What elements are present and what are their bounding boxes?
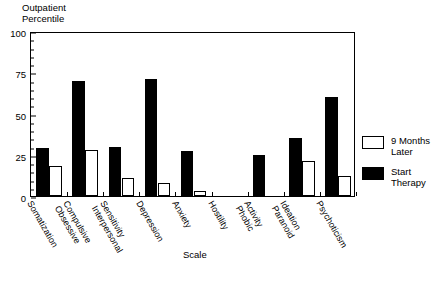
y-axis-minor-tick [31,132,34,133]
legend-swatch-9-months-later [362,136,384,149]
legend-label: 9 Months Later [391,135,430,157]
y-axis-minor-tick [31,57,34,58]
y-axis-tick-label: 0 [21,193,26,204]
y-axis-minor-tick [31,90,34,91]
x-axis-category-label: IdeationParanoid [270,199,305,240]
bar-start-therapy [145,79,158,196]
x-axis-tick [139,192,140,196]
y-axis-minor-tick [31,189,34,190]
y-axis-title: Outpatient Percentile [22,2,66,24]
category-label-line1: Anxiety [170,199,193,230]
y-axis-minor-tick [31,41,34,42]
bar-chart: Outpatient Percentile 0255075100 Scale 9… [0,0,437,281]
plot-area: 0255075100 [30,32,355,197]
bar-9-months-later [122,178,135,196]
legend-label-line1: 9 Months [391,135,430,146]
y-axis-minor-tick [31,66,34,67]
y-axis-title-line1: Outpatient [22,2,66,13]
x-axis-title: Scale [183,249,207,260]
legend-label: Start Therapy [391,166,426,188]
y-axis-minor-tick [31,82,34,83]
x-axis-category-label: Depression [134,199,165,243]
y-axis-minor-tick [31,148,34,149]
legend-item: Start Therapy [362,166,430,188]
bar-start-therapy [181,151,194,196]
x-axis-tick [320,192,321,196]
y-axis-tick-label: 50 [15,110,26,121]
y-axis-minor-tick [31,123,34,124]
bar-start-therapy [325,97,338,196]
y-axis-tick [31,115,36,116]
legend-label-line2: Therapy [391,177,426,188]
x-axis-category-label: SensitivityInterpersonal [89,199,133,255]
bar-start-therapy [253,155,266,196]
bar-9-months-later [194,191,207,196]
category-label-line1: Depression [134,199,165,243]
x-axis-tick [103,192,104,196]
bar-9-months-later [302,161,315,196]
y-axis-tick [31,156,36,157]
x-axis-tick [356,192,357,196]
legend-item: 9 Months Later [362,135,430,157]
y-axis-minor-tick [31,181,34,182]
category-label-line1: Psychoticism [315,199,350,249]
y-axis-minor-tick [31,99,34,100]
y-axis-tick-label: 75 [15,69,26,80]
x-axis-tick [248,192,249,196]
x-axis-category-label: Psychoticism [315,199,350,249]
bar-start-therapy [289,138,302,196]
y-axis-minor-tick [31,140,34,141]
x-axis-tick [67,192,68,196]
y-axis-title-line2: Percentile [22,13,66,24]
x-axis-category-label: Anxiety [170,199,193,230]
x-axis-category-label: Hostility [206,199,230,231]
bar-start-therapy [109,147,122,197]
category-label-line1: Hostility [206,199,230,231]
y-axis-tick [31,33,36,34]
x-axis-tick [175,192,176,196]
chart-legend: 9 Months Later Start Therapy [362,135,430,197]
y-axis-tick-label: 100 [10,28,26,39]
y-axis-tick-label: 25 [15,151,26,162]
x-axis-category-label: ActivityPhobic [234,199,266,234]
bar-start-therapy [72,81,85,197]
y-axis-minor-tick [31,173,34,174]
y-axis-minor-tick [31,165,34,166]
legend-swatch-start-therapy [362,167,384,180]
bar-9-months-later [158,183,171,196]
bar-start-therapy [36,148,49,196]
legend-label-line1: Start [391,166,426,177]
x-axis-tick [212,192,213,196]
legend-label-line2: Later [391,146,430,157]
y-axis-tick [31,74,36,75]
plot-inner: 0255075100 [31,33,354,196]
x-axis-tick [284,192,285,196]
y-axis-minor-tick [31,107,34,108]
bar-9-months-later [49,166,62,196]
bar-9-months-later [85,150,98,196]
y-axis-minor-tick [31,49,34,50]
bar-9-months-later [338,176,351,196]
